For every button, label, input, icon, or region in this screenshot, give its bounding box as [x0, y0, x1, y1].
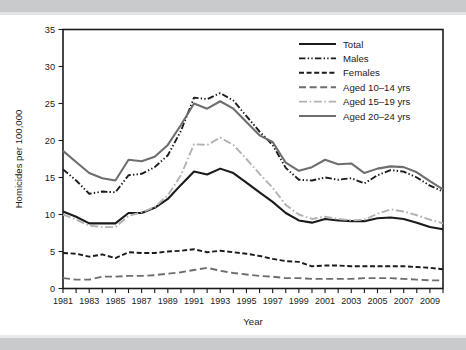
- x-tick-label: 1999: [289, 296, 309, 306]
- series-line-aged-10-14-yrs: [63, 268, 443, 281]
- x-tick-label: 2001: [315, 296, 335, 306]
- x-tick-label: 1997: [263, 296, 283, 306]
- series-line-aged-15-19-yrs: [63, 138, 443, 228]
- x-axis-title: Year: [243, 316, 263, 327]
- x-tick-label: 1991: [184, 296, 204, 306]
- x-tick-label: 1983: [79, 296, 99, 306]
- x-tick-label: 1985: [105, 296, 125, 306]
- x-tick-label: 1993: [210, 296, 230, 306]
- plot-border: [63, 30, 443, 289]
- legend-label-6: Aged 20–24 yrs: [343, 111, 410, 122]
- x-tick-label: 2007: [394, 296, 414, 306]
- x-tick-label: 1981: [53, 296, 73, 306]
- line-chart: 05101520253035 1981198319851987198919911…: [0, 0, 466, 350]
- x-tick-label: 1995: [236, 296, 256, 306]
- y-tick-label: 20: [45, 136, 55, 146]
- chart-figure: 05101520253035 1981198319851987198919911…: [0, 0, 466, 350]
- y-tick-label: 30: [45, 62, 55, 72]
- legend-label-5: Aged 15–19 yrs: [343, 96, 410, 107]
- plot-frame: [63, 30, 443, 289]
- chart-legend: TotalMalesFemalesAged 10–14 yrsAged 15–1…: [299, 39, 410, 122]
- x-tick-label: 2005: [367, 296, 387, 306]
- y-tick-label: 10: [45, 210, 55, 220]
- y-tick-label: 5: [50, 247, 55, 257]
- legend-label-2: Males: [343, 53, 369, 64]
- series-line-females: [63, 249, 443, 269]
- series-line-males: [63, 93, 443, 194]
- x-tick-label: 2003: [341, 296, 361, 306]
- x-tick-label: 2009: [420, 296, 440, 306]
- y-tick-label: 15: [45, 173, 55, 183]
- legend-label-3: Females: [343, 67, 380, 78]
- y-axis-title: Homicides per 100,000: [13, 110, 24, 209]
- series-line-total: [63, 169, 443, 230]
- legend-label-1: Total: [343, 39, 363, 50]
- legend-label-4: Aged 10–14 yrs: [343, 82, 410, 93]
- x-axis-ticks: 1981198319851987198919911993199519971999…: [53, 289, 443, 307]
- x-tick-label: 1987: [132, 296, 152, 306]
- x-tick-label: 1989: [158, 296, 178, 306]
- y-tick-label: 25: [45, 99, 55, 109]
- y-tick-label: 0: [50, 284, 55, 294]
- y-tick-label: 35: [45, 25, 55, 35]
- y-axis-ticks: 05101520253035: [45, 25, 63, 294]
